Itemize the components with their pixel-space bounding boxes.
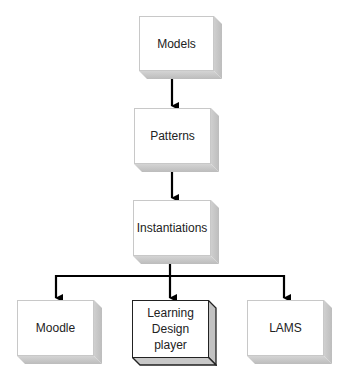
node-label: Patterns	[150, 128, 195, 144]
node-label-line2: Design	[152, 321, 189, 337]
node-learning-design-player: Learning Design player	[132, 300, 217, 366]
node-label-line3: player	[154, 337, 187, 353]
node-label: Instantiations	[137, 220, 208, 236]
node-label: Models	[157, 36, 196, 52]
node-label: LAMS	[269, 320, 302, 336]
node-moodle: Moodle	[17, 300, 102, 364]
node-lams: LAMS	[247, 300, 332, 364]
diagram-canvas: Models Patterns Instantiations Moodle Le…	[0, 0, 348, 378]
node-label-line1: Learning	[147, 305, 194, 321]
node-patterns: Patterns	[134, 108, 219, 172]
node-models: Models	[139, 16, 222, 79]
node-label: Moodle	[36, 320, 75, 336]
node-instantiations: Instantiations	[133, 200, 219, 264]
